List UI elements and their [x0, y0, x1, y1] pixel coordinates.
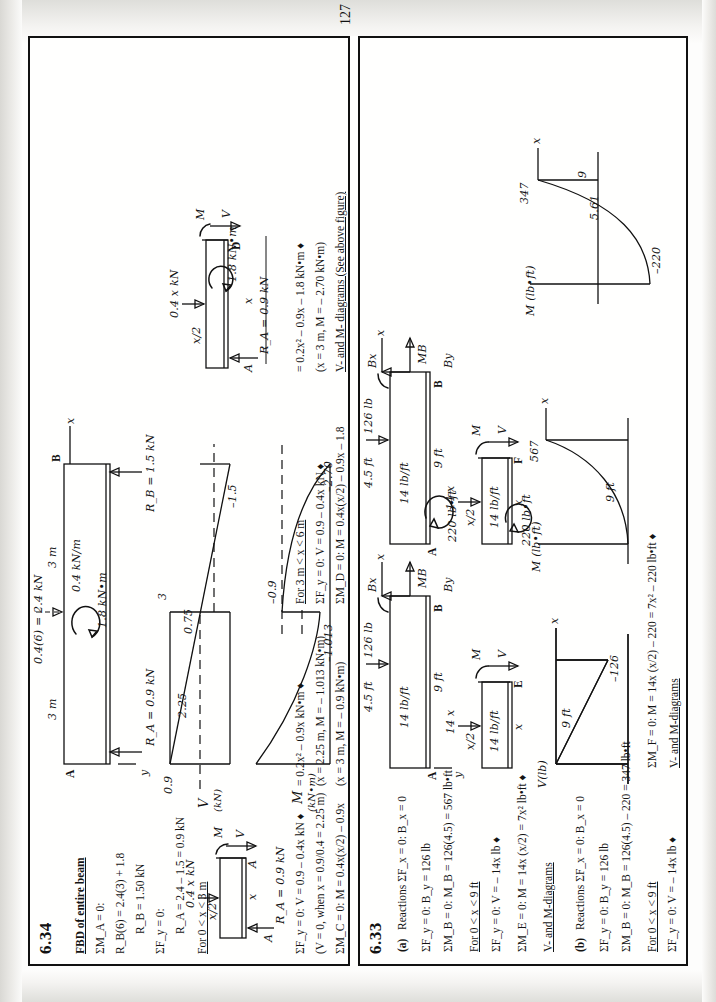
- b-moment-axis-x: x: [530, 138, 543, 144]
- cutD-label-A: A: [242, 364, 255, 372]
- cutD-couple: 1.8 kN•m: [226, 226, 239, 282]
- cutD-moment: M: [194, 209, 207, 220]
- moment-diagram-633b: [360, 34, 690, 964]
- b-moment-label-9: 9: [576, 171, 589, 178]
- scanned-page: 6.34 127: [0, 0, 716, 1002]
- cutD-x: x: [242, 298, 255, 304]
- page-number: 127: [338, 4, 354, 25]
- cutD-half-x: x/2: [190, 326, 203, 344]
- cut-section-D-figure: [30, 34, 352, 964]
- manual-sheet: 6.34 127: [28, 36, 688, 966]
- cutD-load: 0.4 x kN: [168, 269, 181, 318]
- problem-633-panel: 6.33 (a) Reactions ΣF_x = 0: B_x = 0 ΣF_…: [358, 36, 688, 966]
- sheet-wrapper: 6.34 127: [0, 0, 716, 1002]
- problem-634-panel: 6.34 127: [28, 36, 350, 966]
- cutD-reaction: R_A = 0.9 kN: [258, 276, 271, 354]
- b-moment-axis-label: M (lb•ft): [524, 265, 537, 316]
- b-moment-label-n220: –220: [650, 247, 663, 274]
- b-moment-label-5-61: 5.61: [588, 195, 601, 220]
- cutD-shear: V: [220, 210, 233, 218]
- b-moment-label-347: 347: [518, 182, 531, 204]
- cutD-label-D: D: [230, 242, 242, 250]
